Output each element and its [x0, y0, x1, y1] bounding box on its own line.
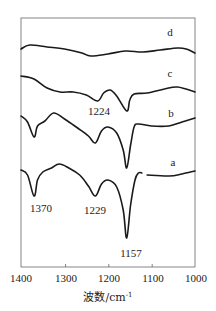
curve-label-a: a	[171, 156, 176, 168]
curve-label-b: b	[168, 107, 174, 119]
peak-label-1224: 1224	[88, 105, 111, 117]
curve-a	[21, 164, 142, 238]
tick-label-1200: 1200	[98, 272, 121, 284]
curve-label-c: c	[168, 67, 173, 79]
curve-b	[21, 113, 195, 168]
tick-label-1400: 1400	[10, 272, 33, 284]
curve-a	[147, 171, 195, 176]
peak-label-1157: 1157	[120, 247, 142, 259]
plot-frame	[21, 18, 195, 267]
x-axis-ticks	[66, 264, 153, 267]
tick-label-1100: 1100	[142, 272, 164, 284]
tick-label-1000: 1000	[185, 272, 208, 284]
x-axis-label-superscript: -1	[126, 291, 133, 299]
peak-label-1229: 1229	[84, 204, 107, 216]
peak-label-1370: 1370	[30, 202, 53, 214]
tick-label-1300: 1300	[55, 272, 78, 284]
curve-d	[21, 45, 195, 56]
curve-label-d: d	[167, 26, 173, 38]
ir-spectrum-chart: 1400 1300 1200 1100 1000 波数/cm-1 d c b a…	[0, 0, 216, 311]
x-axis-tick-labels: 1400 1300 1200 1100 1000	[10, 272, 208, 284]
x-axis-label: 波数/cm-1	[83, 291, 132, 304]
x-axis-label-text: 波数/cm	[83, 291, 126, 304]
